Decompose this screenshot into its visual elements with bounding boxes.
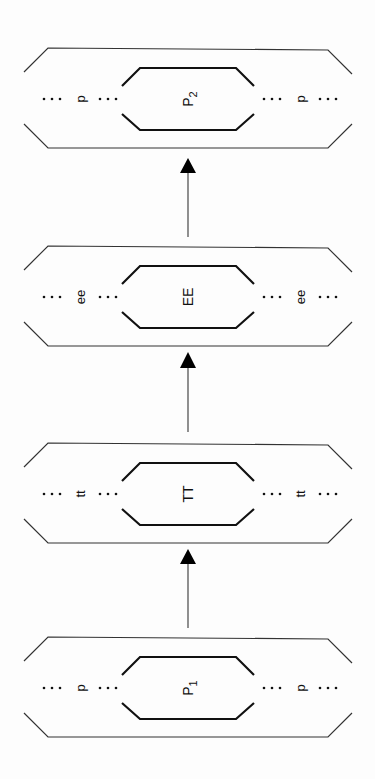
ellipsis-dot (107, 296, 110, 299)
ellipsis-dot (263, 296, 266, 299)
side-label-right: p (293, 684, 308, 691)
node-ee: EEeeee (24, 246, 352, 346)
ellipsis-dot (115, 296, 118, 299)
ellipsis-dot (335, 98, 338, 101)
ellipsis-dot (327, 687, 330, 690)
center-label: P2 (180, 91, 199, 106)
ellipsis-dot (107, 493, 110, 496)
ellipsis-dot (43, 296, 46, 299)
ellipsis-dot (115, 98, 118, 101)
ellipsis-dot (99, 296, 102, 299)
ellipsis-dot (327, 493, 330, 496)
ellipsis-dot (271, 493, 274, 496)
ellipsis-dot (279, 493, 282, 496)
side-label-right: p (293, 95, 308, 102)
pipeline-diagram: P2ppEEeeeeTTttttP1pp (0, 0, 375, 779)
ellipsis-dot (59, 296, 62, 299)
side-label-left: p (73, 684, 88, 691)
ellipsis-dot (279, 98, 282, 101)
ellipsis-dot (107, 687, 110, 690)
node-p2: P2pp (24, 48, 352, 148)
ellipsis-dot (59, 493, 62, 496)
ellipsis-dot (99, 493, 102, 496)
ellipsis-dot (279, 296, 282, 299)
ellipsis-dot (43, 493, 46, 496)
ellipsis-dot (263, 687, 266, 690)
ellipsis-dot (335, 687, 338, 690)
ellipsis-dot (115, 687, 118, 690)
ellipsis-dot (327, 296, 330, 299)
ellipsis-dot (51, 98, 54, 101)
ellipsis-dot (271, 98, 274, 101)
ellipsis-dot (327, 98, 330, 101)
ellipsis-dot (335, 296, 338, 299)
side-label-right: ee (293, 290, 308, 304)
side-label-right: tt (293, 490, 308, 498)
ellipsis-dot (271, 296, 274, 299)
ellipsis-dot (59, 98, 62, 101)
ellipsis-dot (43, 98, 46, 101)
ellipsis-dot (319, 296, 322, 299)
side-label-left: p (73, 95, 88, 102)
side-label-left: ee (73, 290, 88, 304)
arrow-p1-to-tt (180, 549, 196, 628)
ellipsis-dot (99, 98, 102, 101)
center-label: P1 (180, 680, 199, 695)
arrow-ee-to-p2 (180, 158, 196, 237)
ellipsis-dot (99, 687, 102, 690)
ellipsis-dot (263, 493, 266, 496)
ellipsis-dot (319, 493, 322, 496)
center-label: EE (180, 288, 196, 307)
ellipsis-dot (59, 687, 62, 690)
node-p1: P1pp (24, 637, 352, 737)
side-label-left: tt (73, 490, 88, 498)
ellipsis-dot (319, 687, 322, 690)
ellipsis-dot (335, 493, 338, 496)
ellipsis-dot (319, 98, 322, 101)
ellipsis-dot (279, 687, 282, 690)
ellipsis-dot (107, 98, 110, 101)
node-tt: TTtttt (24, 443, 352, 543)
ellipsis-dot (51, 687, 54, 690)
ellipsis-dot (263, 98, 266, 101)
arrow-tt-to-ee (180, 352, 196, 432)
ellipsis-dot (51, 296, 54, 299)
ellipsis-dot (271, 687, 274, 690)
center-label: TT (180, 485, 196, 503)
ellipsis-dot (115, 493, 118, 496)
ellipsis-dot (51, 493, 54, 496)
ellipsis-dot (43, 687, 46, 690)
